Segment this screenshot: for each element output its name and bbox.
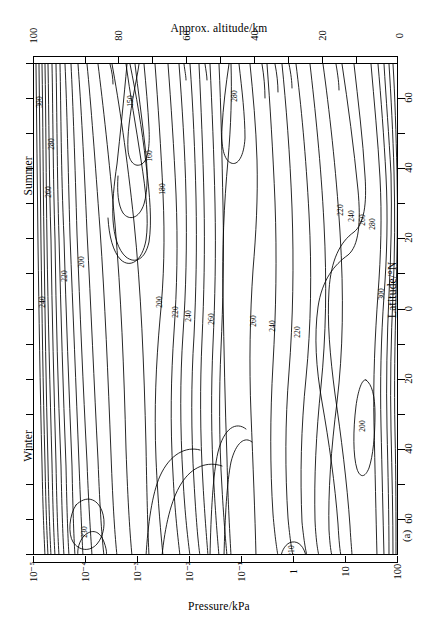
- bottom-tick-label-1e-1: 10⁻¹: [235, 554, 247, 590]
- right-tick-label-40s: 40: [403, 439, 414, 459]
- right-tick-label-40n: 40: [403, 158, 414, 178]
- top-tick-label-100: 100: [28, 21, 39, 51]
- contour-label-230: 230: [80, 526, 89, 538]
- left-tick: [26, 203, 33, 204]
- contour-label-220c: 220: [293, 326, 302, 338]
- left-tick: [26, 484, 33, 485]
- contour-label-300b: 300: [377, 288, 386, 300]
- left-tick: [26, 344, 33, 345]
- top-tick-major: [118, 56, 119, 63]
- contour-label-300a: 300: [35, 96, 44, 108]
- right-tick-minor: [398, 133, 405, 134]
- left-tick: [26, 379, 33, 380]
- right-tick-label-0: 0: [403, 299, 414, 319]
- left-tick: [26, 309, 33, 310]
- right-tick-label-20s: 20: [403, 369, 414, 389]
- top-tick-minor: [220, 56, 221, 63]
- right-tick-minor: [398, 414, 405, 415]
- bottom-tick-label-100: 100: [392, 554, 403, 590]
- bottom-tick-label-1: 1: [288, 554, 299, 590]
- contour-label-150: 150: [126, 95, 135, 107]
- contour-label-240a: 240: [38, 296, 47, 308]
- season-label-winter: Winter: [22, 416, 34, 476]
- contour-label-200a: 200: [77, 256, 86, 268]
- contour-label-220b: 220: [171, 306, 180, 318]
- contour-label-280b: 280: [230, 90, 239, 102]
- top-tick-minor: [85, 56, 86, 63]
- bottom-tick-label-1e-2: 10⁻²: [183, 554, 195, 590]
- contour-label-240b: 240: [184, 310, 193, 322]
- season-label-summer: Summer: [22, 146, 34, 206]
- left-tick: [26, 449, 33, 450]
- left-tick: [26, 98, 33, 99]
- contour-label-260d: 260: [358, 214, 367, 226]
- top-tick-major: [322, 56, 323, 63]
- top-tick-label-40: 40: [249, 21, 260, 51]
- top-axis-line: [33, 56, 398, 57]
- top-tick-label-0: 0: [394, 21, 405, 51]
- contour-label-200c: 200: [358, 420, 367, 432]
- contour-label-260a: 260: [44, 186, 53, 198]
- right-tick-label-20n: 20: [403, 228, 414, 248]
- right-tick-label-60s: 60: [403, 509, 414, 529]
- figure-root: Approx. altitude/km 100 80 60 40 20 0: [0, 0, 438, 635]
- left-tick: [26, 133, 33, 134]
- left-tick: [26, 63, 33, 64]
- top-tick-major: [186, 56, 187, 63]
- contour-label-280a: 280: [47, 138, 56, 150]
- bottom-axis-title: Pressure/kPa: [0, 600, 438, 612]
- right-axis-title: Latitude/°N: [386, 261, 398, 318]
- bottom-tick-label-1e-5: 10⁻⁵: [27, 554, 39, 590]
- top-tick-major: [254, 56, 255, 63]
- bottom-tick-label-1e-4: 10⁻⁴: [79, 554, 91, 590]
- top-tick-minor: [152, 56, 153, 63]
- right-tick-label-60n: 60: [403, 88, 414, 108]
- left-tick: [26, 414, 33, 415]
- bottom-tick-label-1e-3: 10⁻³: [131, 554, 143, 590]
- contour-label-220d: 220: [336, 204, 345, 216]
- left-tick: [26, 273, 33, 274]
- left-tick: [26, 238, 33, 239]
- contour-label-200b: 200: [155, 296, 164, 308]
- contour-label-240d: 240: [347, 210, 356, 222]
- left-tick: [26, 519, 33, 520]
- contour-label-220a: 220: [60, 270, 69, 282]
- right-tick-minor: [398, 344, 405, 345]
- top-tick-label-20: 20: [317, 21, 328, 51]
- left-tick: [26, 168, 33, 169]
- top-tick-label-60: 60: [181, 21, 192, 51]
- contour-label-160: 160: [145, 150, 154, 162]
- contour-label-180: 180: [158, 183, 167, 195]
- contour-label-260c: 260: [249, 315, 258, 327]
- top-tick-major: [397, 56, 398, 63]
- top-tick-label-80: 80: [113, 21, 124, 51]
- right-tick-minor: [398, 273, 405, 274]
- right-tick-minor: [398, 203, 405, 204]
- contour-svg: 300 280 260 240 220 200 150 160 180 200 …: [34, 64, 398, 555]
- contour-plot-area: 300 280 260 240 220 200 150 160 180 200 …: [33, 63, 398, 555]
- contour-label-260b: 260: [207, 313, 216, 325]
- top-axis-title: Approx. altitude/km: [0, 22, 438, 34]
- contour-label-240c: 240: [268, 320, 277, 332]
- top-tick-minor: [356, 56, 357, 63]
- top-tick-major: [33, 56, 34, 63]
- bottom-tick-label-10: 10: [340, 554, 351, 590]
- contour-label-280d: 280: [368, 218, 377, 230]
- panel-label: (a): [400, 530, 412, 542]
- right-tick-minor: [398, 484, 405, 485]
- top-tick-minor: [288, 56, 289, 63]
